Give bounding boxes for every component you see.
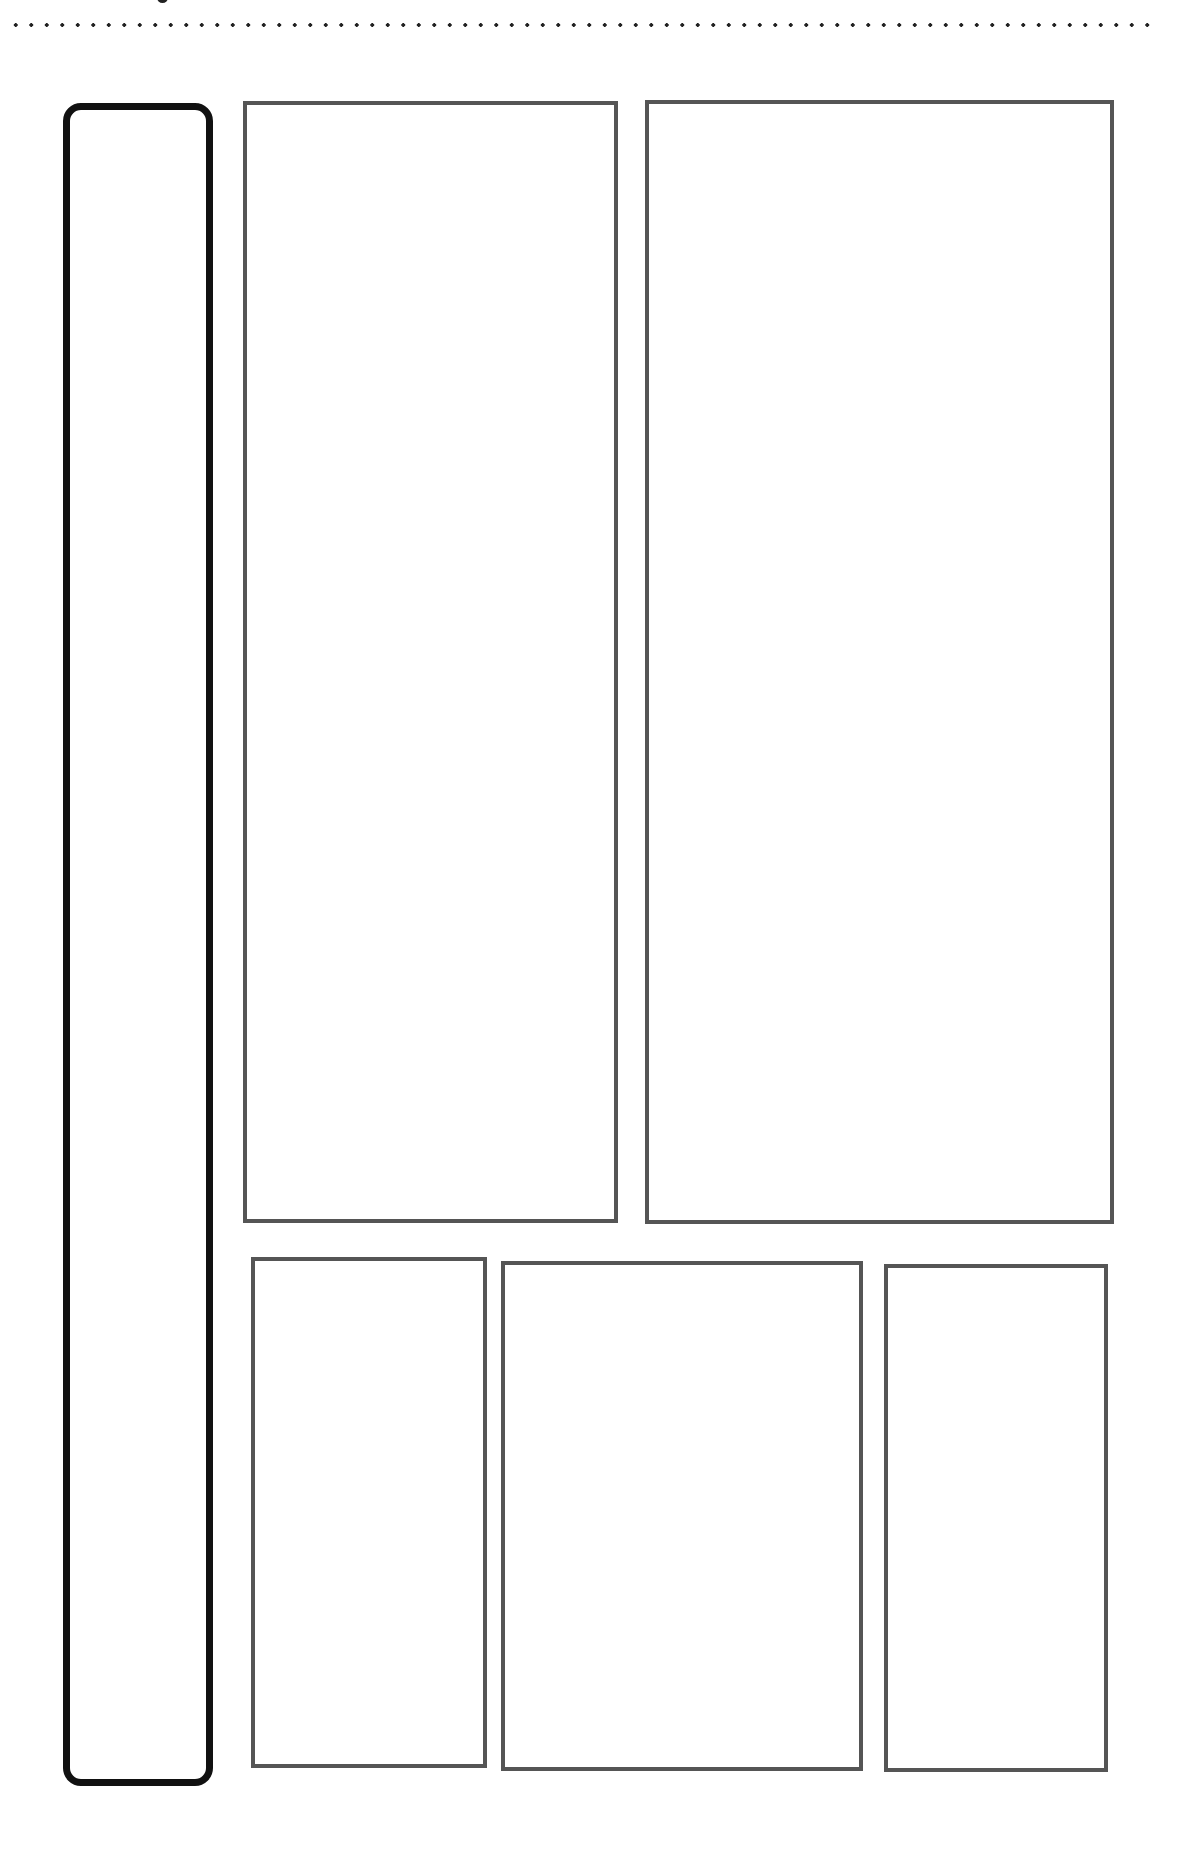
sidebar-panel — [63, 103, 213, 1786]
clipped-text-fragment — [157, 0, 168, 3]
dotted-separator — [8, 23, 1160, 27]
bottom-center-panel — [501, 1261, 863, 1771]
top-right-panel — [645, 100, 1114, 1224]
top-left-panel — [243, 101, 618, 1223]
bottom-right-panel — [884, 1264, 1108, 1772]
bottom-left-panel — [251, 1257, 487, 1768]
